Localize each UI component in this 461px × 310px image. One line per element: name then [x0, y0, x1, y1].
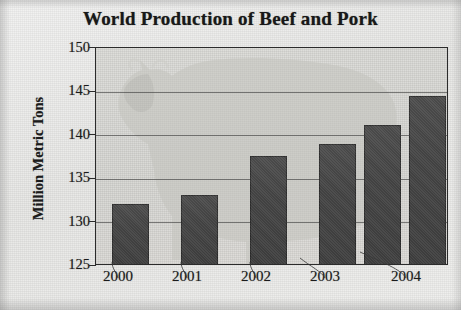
bar-2000[interactable]	[112, 204, 149, 265]
bar-2003[interactable]	[319, 144, 356, 265]
y-tick-label-145: 145	[48, 82, 90, 99]
x-axis-label-2003: 2003	[290, 268, 360, 285]
y-tick-label-140: 140	[48, 126, 90, 143]
x-axis-label-2000: 2000	[83, 268, 153, 285]
y-tick-mark-125	[89, 265, 96, 266]
chart-title: World Production of Beef and Pork	[0, 8, 461, 30]
bar-2002[interactable]	[250, 156, 287, 265]
x-axis-label-2001: 2001	[152, 268, 222, 285]
y-tick-label-130: 130	[48, 213, 90, 230]
gridline-145	[96, 92, 448, 93]
x-axis-label-2002: 2002	[221, 268, 291, 285]
y-axis-title: Million Metric Tons	[30, 59, 47, 259]
y-tick-label-135: 135	[48, 169, 90, 186]
y-tick-mark-140	[89, 134, 96, 135]
bar-2004[interactable]	[364, 125, 401, 265]
plot-area	[95, 47, 448, 265]
y-tick-mark-130	[89, 221, 96, 222]
bar-2004-b[interactable]	[409, 96, 446, 265]
y-tick-mark-135	[89, 178, 96, 179]
bar-2001[interactable]	[181, 195, 218, 265]
y-tick-mark-145	[89, 91, 96, 92]
y-tick-mark-150	[89, 47, 96, 48]
y-tick-label-150: 150	[48, 39, 90, 56]
x-axis-label-2004: 2004	[371, 268, 441, 285]
